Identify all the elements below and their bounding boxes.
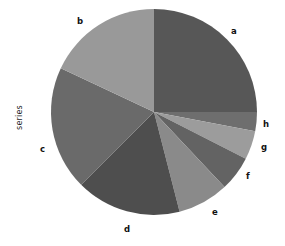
pie-slice-label-d: d	[124, 225, 130, 234]
pie-slices-group	[51, 9, 257, 215]
pie-slice-label-f: f	[246, 172, 250, 181]
pie-slice-label-b: b	[77, 17, 83, 26]
series-axis-label: series	[15, 88, 24, 148]
pie-slice-a[interactable]	[154, 9, 257, 112]
pie-slice-label-a: a	[231, 27, 237, 36]
pie-chart: series abcdefgh	[0, 0, 285, 246]
pie-slice-label-g: g	[261, 143, 267, 152]
pie-slice-label-c: c	[40, 145, 45, 154]
pie-chart-canvas	[0, 0, 285, 246]
pie-slice-label-e: e	[212, 208, 218, 217]
pie-slice-label-h: h	[263, 120, 269, 129]
